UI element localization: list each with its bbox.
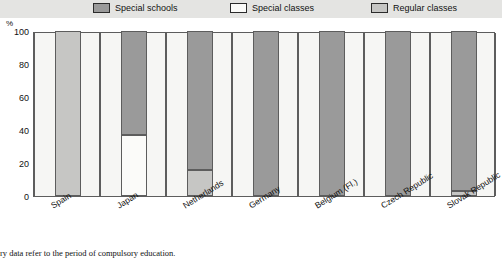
stacked-bar[interactable] xyxy=(385,31,410,196)
y-axis-tick-label: 100 xyxy=(2,27,29,37)
stacked-bar[interactable] xyxy=(253,31,278,196)
stacked-bar[interactable] xyxy=(451,31,476,196)
bar-segment[interactable] xyxy=(385,31,410,196)
bar-group xyxy=(232,33,298,196)
bar-segment[interactable] xyxy=(253,31,278,196)
bar-segment[interactable] xyxy=(121,31,146,135)
y-axis-tick-label: 20 xyxy=(2,159,29,169)
bar-group xyxy=(100,33,166,196)
chart-footnote: ry data refer to the period of compulsor… xyxy=(0,248,175,258)
stacked-bar[interactable] xyxy=(319,31,344,196)
y-axis-tick-label: 60 xyxy=(2,93,29,103)
bar-segment[interactable] xyxy=(55,31,80,196)
bar-segment[interactable] xyxy=(451,31,476,191)
bar-group xyxy=(166,33,232,196)
bar-segment[interactable] xyxy=(121,135,146,196)
y-axis-tick-label: 40 xyxy=(2,126,29,136)
y-axis-tick-label: 0 xyxy=(2,192,29,202)
bar-group xyxy=(430,33,496,196)
bar-segment[interactable] xyxy=(187,31,212,170)
stacked-bar[interactable] xyxy=(187,31,212,196)
stacked-bar[interactable] xyxy=(55,31,80,196)
bar-group xyxy=(298,33,364,196)
bar-segment[interactable] xyxy=(319,31,344,196)
stacked-bar[interactable] xyxy=(121,31,146,196)
chart-container: % 100806040200 SpainJapanNetherlandsGerm… xyxy=(0,0,502,263)
bar-group xyxy=(364,33,430,196)
bar-group xyxy=(34,33,100,196)
y-axis-tick-label: 80 xyxy=(2,60,29,70)
